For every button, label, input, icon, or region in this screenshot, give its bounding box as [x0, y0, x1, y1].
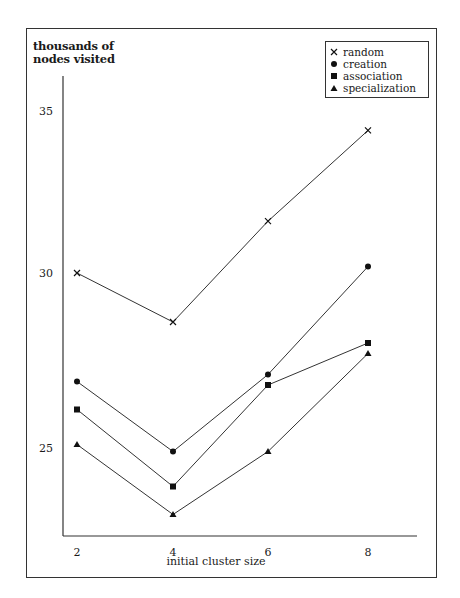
marker-random — [265, 218, 271, 224]
legend-label: random — [343, 46, 384, 58]
marker-association — [170, 484, 176, 490]
marker-random — [74, 270, 80, 276]
triangle-marker-icon — [330, 84, 338, 92]
legend-item-association: association — [330, 70, 428, 82]
marker-association — [365, 340, 371, 346]
marker-specialization — [365, 350, 372, 356]
legend-item-specialization: specialization — [330, 82, 428, 94]
square-marker-icon — [330, 72, 338, 80]
legend-label: specialization — [343, 82, 416, 94]
marker-creation — [365, 264, 371, 270]
x-marker-icon — [330, 48, 338, 56]
legend-label: association — [343, 70, 403, 82]
marker-random — [170, 319, 176, 325]
y-tick-25: 25 — [39, 442, 53, 455]
x-tick-2: 2 — [74, 546, 81, 559]
legend: random creation association specializati… — [325, 41, 429, 98]
marker-creation — [265, 372, 271, 378]
marker-creation — [170, 449, 176, 455]
legend-item-creation: creation — [330, 58, 428, 70]
y-tick-30: 30 — [39, 267, 53, 280]
series-line-association — [77, 343, 368, 487]
legend-item-random: random — [330, 46, 428, 58]
marker-specialization — [170, 511, 177, 517]
marker-specialization — [74, 441, 81, 447]
marker-association — [265, 382, 271, 388]
circle-marker-icon — [330, 60, 338, 68]
y-tick-35: 35 — [39, 105, 53, 118]
series-line-random — [77, 130, 368, 322]
x-axis-label: initial cluster size — [166, 555, 265, 568]
series-line-creation — [77, 267, 368, 452]
marker-random — [365, 127, 371, 133]
marker-creation — [74, 379, 80, 385]
legend-label: creation — [343, 58, 387, 70]
x-tick-8: 8 — [365, 546, 372, 559]
marker-association — [74, 407, 80, 413]
